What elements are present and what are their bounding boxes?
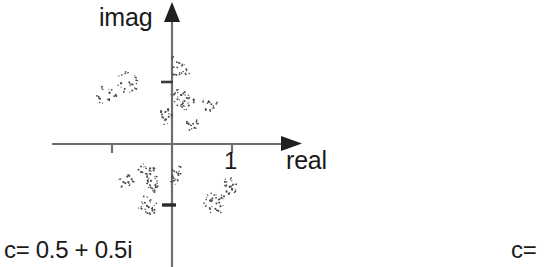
scatter-point [230, 177, 232, 179]
scatter-point [176, 66, 178, 68]
scatter-point [111, 89, 113, 91]
scatter-point [215, 203, 217, 205]
scatter-point [98, 97, 100, 99]
scatter-point [145, 211, 147, 213]
scatter-point [206, 197, 207, 198]
scatter-point [154, 205, 155, 206]
scatter-point [219, 198, 220, 199]
scatter-point [102, 103, 103, 104]
scatter-point [165, 118, 167, 120]
axes-group [52, 2, 302, 267]
scatter-point [185, 73, 187, 75]
scatter-point [156, 182, 158, 184]
scatter-point [120, 178, 122, 180]
scatter-point [190, 124, 191, 125]
scatter-point [179, 73, 181, 75]
scatter-point [124, 182, 126, 184]
scatter-point [140, 206, 142, 208]
scatter-point [186, 122, 188, 124]
scatter-point [134, 75, 135, 76]
scatter-point [180, 94, 182, 96]
scatter-point [149, 200, 151, 202]
scatter-points-group [96, 56, 237, 215]
scatter-point [210, 103, 212, 105]
scatter-point [167, 109, 169, 111]
scatter-point [108, 92, 110, 94]
scatter-point [235, 189, 236, 190]
scatter-point [176, 171, 178, 173]
scatter-point [121, 185, 122, 186]
scatter-point [148, 206, 150, 208]
scatter-point [154, 176, 155, 177]
scatter-point [176, 89, 178, 91]
scatter-point [177, 96, 178, 97]
scatter-point [165, 111, 166, 112]
scatter-point [143, 166, 144, 167]
scatter-point [171, 169, 173, 171]
scatter-point [182, 101, 184, 103]
scatter-point [188, 73, 190, 75]
scatter-point [150, 180, 152, 182]
scatter-point [210, 192, 212, 194]
scatter-point [211, 206, 212, 207]
scatter-point [188, 95, 189, 96]
scatter-point [195, 127, 197, 129]
scatter-point [231, 188, 233, 190]
scatter-point [115, 95, 117, 97]
scatter-point [220, 212, 222, 214]
scatter-point [220, 197, 222, 199]
scatter-point [122, 181, 124, 183]
scatter-point [152, 167, 154, 169]
scatter-point [160, 111, 162, 113]
scatter-point [124, 73, 126, 75]
scatter-point [131, 89, 133, 91]
scatter-point [121, 74, 123, 76]
scatter-point [142, 203, 143, 204]
scatter-point [213, 194, 215, 196]
scatter-point [224, 181, 226, 183]
scatter-point [174, 101, 175, 102]
scatter-point [171, 57, 173, 59]
scatter-point [140, 166, 141, 167]
scatter-point [101, 88, 102, 89]
scatter-point [206, 199, 207, 200]
scatter-point [145, 167, 147, 169]
scatter-point [98, 96, 100, 98]
scatter-point [173, 177, 175, 179]
scatter-point [182, 63, 184, 65]
plot-canvas [0, 0, 549, 267]
scatter-point [230, 185, 232, 187]
scatter-point [176, 98, 178, 100]
scatter-point [133, 181, 135, 183]
scatter-point [235, 183, 237, 185]
scatter-point [186, 109, 187, 110]
scatter-point [173, 93, 175, 95]
scatter-point [170, 94, 171, 95]
scatter-point [144, 209, 146, 211]
scatter-point [212, 108, 213, 109]
scatter-point [174, 74, 176, 76]
scatter-point [184, 109, 185, 110]
scatter-point [178, 170, 179, 171]
scatter-point [182, 71, 184, 73]
scatter-point [232, 183, 234, 185]
scatter-point [130, 85, 131, 86]
scatter-point [117, 85, 119, 87]
scatter-point [173, 66, 175, 68]
scatter-point [147, 181, 149, 183]
scatter-point [226, 181, 228, 183]
scatter-point [205, 205, 207, 207]
scatter-point [146, 175, 148, 177]
scatter-point [211, 197, 213, 199]
scatter-point [186, 121, 188, 123]
scatter-point [138, 207, 139, 208]
scatter-point [120, 82, 122, 84]
scatter-point [153, 191, 155, 193]
scatter-point [207, 195, 208, 196]
scatter-point [210, 110, 211, 111]
scatter-point [119, 179, 120, 180]
scatter-point [155, 203, 157, 205]
scatter-point [196, 123, 197, 124]
scatter-point [155, 178, 156, 179]
scatter-point [150, 202, 151, 203]
